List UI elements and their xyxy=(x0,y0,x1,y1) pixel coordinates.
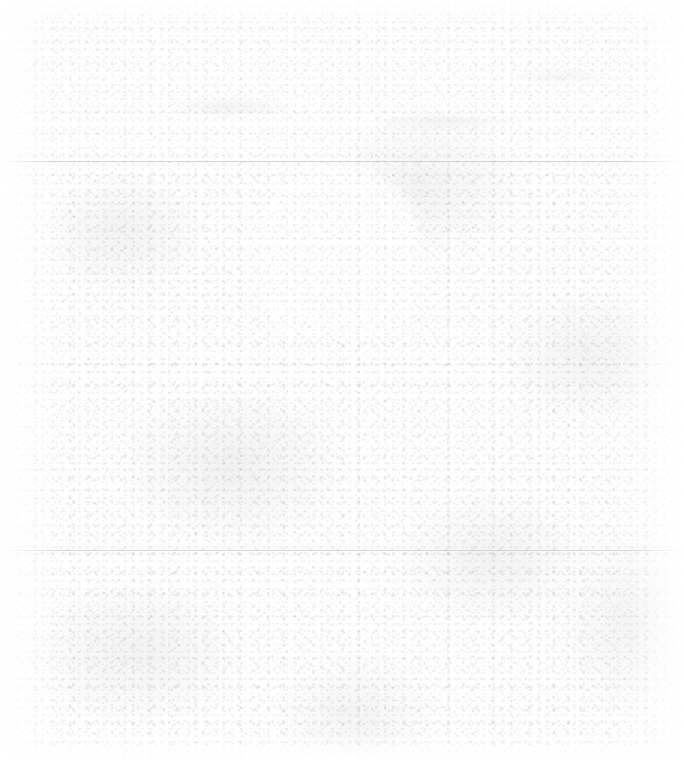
background-surface xyxy=(0,0,684,776)
screenshot-canvas: none xyxy=(0,0,684,776)
